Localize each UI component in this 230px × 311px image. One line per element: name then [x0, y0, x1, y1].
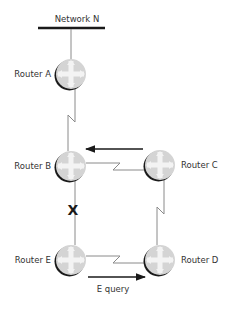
- router-b: Router B: [14, 151, 86, 183]
- router-d: Router D: [144, 245, 219, 277]
- router-a: Router A: [14, 59, 86, 91]
- router-a-label: Router A: [14, 69, 51, 79]
- link-a-b: [68, 89, 75, 151]
- router-b-icon: [55, 151, 87, 183]
- failure-x-icon: X: [68, 202, 79, 218]
- link-c-d: [157, 180, 164, 245]
- link-e-d: [86, 256, 146, 263]
- router-d-label: Router D: [181, 255, 219, 265]
- router-c: Router C: [144, 150, 218, 182]
- router-c-icon: [144, 150, 176, 182]
- network-label: Network N: [55, 14, 100, 24]
- router-b-label: Router B: [14, 161, 51, 171]
- router-d-icon: [144, 245, 176, 277]
- network-diagram: Network N Router A Router B Router C Rou…: [0, 0, 230, 311]
- query-label: E query: [97, 284, 130, 294]
- link-b-c: [86, 163, 146, 170]
- router-c-label: Router C: [181, 160, 218, 170]
- router-e-label: Router E: [15, 255, 51, 265]
- router-a-icon: [55, 59, 87, 91]
- router-e-icon: [55, 245, 87, 277]
- router-e: Router E: [15, 245, 86, 277]
